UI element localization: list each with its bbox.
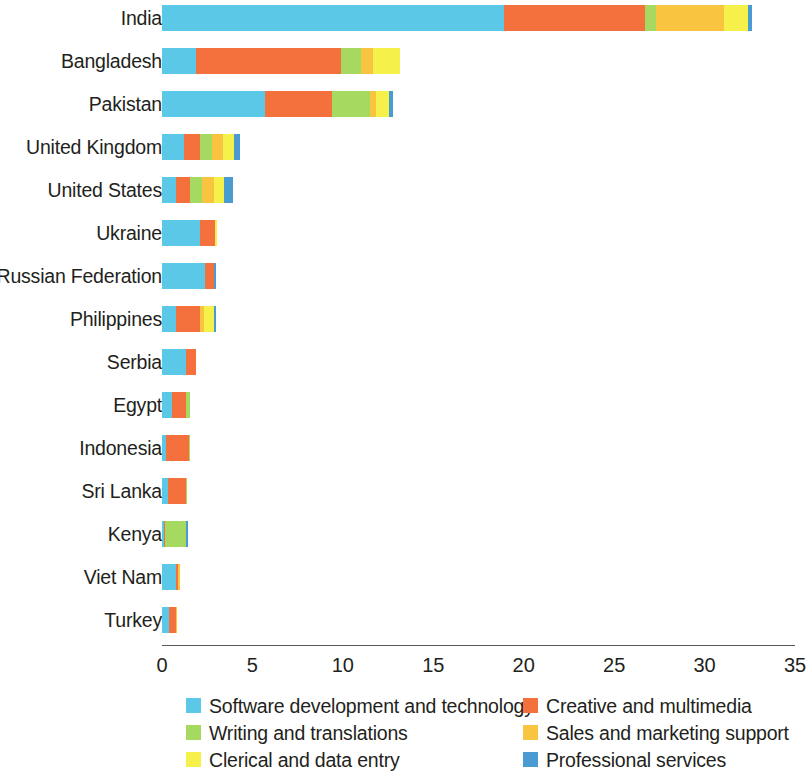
x-axis-tick-labels: 05101520253035	[0, 652, 803, 680]
category-label: Sri Lanka	[0, 478, 162, 504]
bar-row: Kenya	[0, 521, 803, 564]
bar-row: United States	[0, 177, 803, 220]
bar-segment	[389, 91, 393, 117]
bar-row: United Kingdom	[0, 134, 803, 177]
bar-segment	[162, 564, 176, 590]
x-tick-label: 15	[403, 652, 463, 678]
stacked-bar	[162, 478, 187, 504]
category-label: Serbia	[0, 349, 162, 375]
bar-segment	[234, 134, 239, 160]
bar-segment	[162, 220, 200, 246]
bar-segment	[212, 134, 224, 160]
x-tick-label: 20	[494, 652, 554, 678]
bar-segment	[724, 5, 748, 31]
bar-segment	[172, 392, 186, 418]
bar-segment	[162, 349, 186, 375]
bar-segment	[162, 306, 176, 332]
bar-segment	[166, 435, 190, 461]
bar-segment	[215, 220, 217, 246]
bar-segment	[204, 306, 214, 332]
bar-segment	[176, 306, 200, 332]
bar-segment	[656, 5, 725, 31]
bar-segment	[176, 177, 190, 203]
bar-segment	[265, 91, 332, 117]
stacked-bar	[162, 220, 217, 246]
bar-segment	[205, 263, 213, 289]
bar-segment	[162, 177, 176, 203]
bar-row: Bangladesh	[0, 48, 803, 91]
legend-color-swatch-icon	[523, 698, 538, 713]
legend-label: Creative and multimedia	[546, 694, 752, 718]
legend-item[interactable]: Sales and marketing support	[523, 719, 786, 746]
stacked-bar	[162, 392, 190, 418]
x-tick-label: 35	[765, 652, 810, 678]
legend-item[interactable]: Creative and multimedia	[523, 692, 786, 719]
category-label: Viet Nam	[0, 564, 162, 590]
legend-label: Clerical and data entry	[209, 748, 400, 772]
plot-area: IndiaBangladeshPakistanUnited KingdomUni…	[0, 0, 803, 650]
legend-item[interactable]: Professional services	[523, 746, 786, 773]
bar-segment	[186, 478, 187, 504]
bar-segment	[186, 349, 196, 375]
bar-segment	[341, 48, 361, 74]
bar-segment	[162, 134, 184, 160]
bar-segment	[214, 263, 217, 289]
bar-segment	[200, 134, 212, 160]
category-label: Egypt	[0, 392, 162, 418]
stacked-bar	[162, 435, 190, 461]
bar-row: Egypt	[0, 392, 803, 435]
category-label: Pakistan	[0, 91, 162, 117]
category-label: Bangladesh	[0, 48, 162, 74]
legend-label: Writing and translations	[209, 721, 408, 745]
category-label: Kenya	[0, 521, 162, 547]
stacked-bar	[162, 134, 240, 160]
legend-item[interactable]: Software development and technology	[186, 692, 523, 719]
bar-row: Viet Nam	[0, 564, 803, 607]
x-axis-line	[162, 645, 795, 646]
bar-segment	[162, 48, 196, 74]
bar-segment	[162, 5, 504, 31]
x-tick-label: 10	[313, 652, 373, 678]
bar-segment	[373, 48, 400, 74]
category-label: Philippines	[0, 306, 162, 332]
bar-segment	[224, 177, 233, 203]
x-tick-label: 0	[132, 652, 192, 678]
bar-segment	[186, 392, 190, 418]
stacked-bar	[162, 607, 176, 633]
legend-item[interactable]: Writing and translations	[186, 719, 523, 746]
bar-segment	[202, 177, 214, 203]
legend-label: Professional services	[546, 748, 726, 772]
bar-segment	[645, 5, 656, 31]
stacked-bar	[162, 349, 196, 375]
legend-color-swatch-icon	[186, 698, 201, 713]
category-label: Russian Federation	[0, 263, 162, 289]
bar-segment	[162, 392, 172, 418]
bar-segment	[223, 134, 234, 160]
stacked-bar	[162, 306, 216, 332]
legend-color-swatch-icon	[523, 725, 538, 740]
bar-segment	[190, 177, 202, 203]
x-tick-label: 30	[675, 652, 735, 678]
category-label: United States	[0, 177, 162, 203]
bar-row: India	[0, 5, 803, 48]
bar-segment	[214, 177, 225, 203]
bar-segment	[186, 521, 188, 547]
category-label: Turkey	[0, 607, 162, 633]
bar-segment	[376, 91, 389, 117]
bar-segment	[200, 220, 215, 246]
bar-segment	[361, 48, 373, 74]
bar-row: Turkey	[0, 607, 803, 650]
legend-item[interactable]: Clerical and data entry	[186, 746, 523, 773]
category-label: Ukraine	[0, 220, 162, 246]
stacked-bar	[162, 177, 233, 203]
stacked-bar	[162, 91, 393, 117]
bar-segment	[196, 48, 341, 74]
stacked-bar	[162, 5, 752, 31]
category-label: Indonesia	[0, 435, 162, 461]
category-label: United Kingdom	[0, 134, 162, 160]
stacked-bar	[162, 263, 216, 289]
category-label: India	[0, 5, 162, 31]
bar-segment	[332, 91, 370, 117]
bar-row: Serbia	[0, 349, 803, 392]
